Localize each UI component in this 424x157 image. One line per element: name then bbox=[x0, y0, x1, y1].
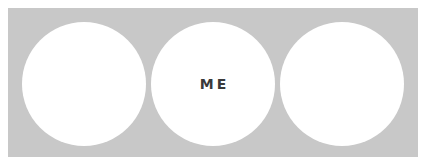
circle-right bbox=[280, 22, 404, 146]
circle-left bbox=[22, 22, 146, 146]
circle-middle: ME bbox=[151, 22, 275, 146]
circle-middle-label: ME bbox=[197, 76, 230, 92]
